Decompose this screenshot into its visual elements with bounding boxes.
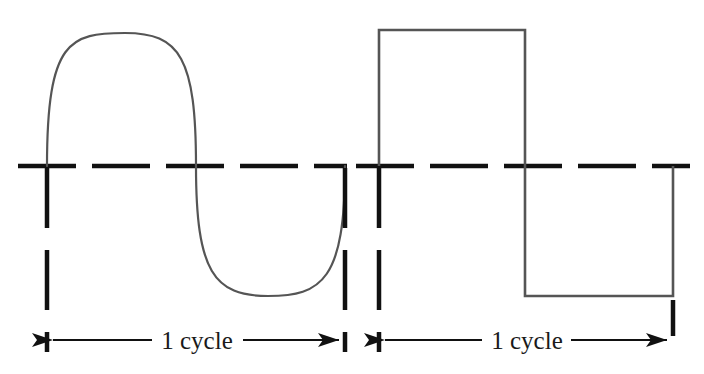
square-cycle-label: 1 cycle xyxy=(491,327,562,354)
waveform-figure: 1 cycle 1 cycle xyxy=(0,0,704,374)
square-panel: 1 cycle xyxy=(379,30,673,354)
sine-panel: 1 cycle xyxy=(47,33,345,354)
sine-waveform-curve xyxy=(47,33,345,296)
square-waveform-curve xyxy=(379,30,673,296)
sine-cycle-label: 1 cycle xyxy=(161,327,232,354)
waveform-diagram-canvas: 1 cycle 1 cycle xyxy=(0,0,704,374)
